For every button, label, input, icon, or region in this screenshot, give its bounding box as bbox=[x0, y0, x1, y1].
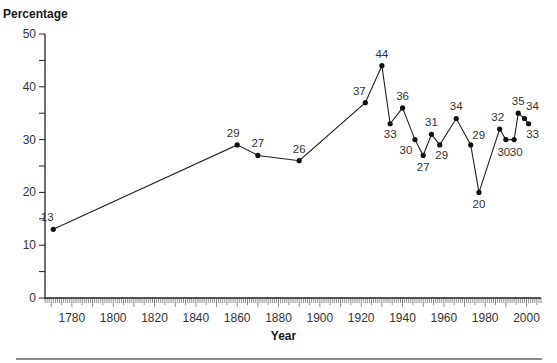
series-line bbox=[53, 66, 528, 230]
data-point bbox=[388, 121, 393, 126]
x-axis-ticks: 1780180018201840186018801900192019401960… bbox=[45, 298, 541, 325]
y-axis-label: Percentage bbox=[3, 7, 68, 21]
data-label: 34 bbox=[450, 100, 463, 112]
x-tick-label: 1820 bbox=[141, 311, 168, 325]
data-point bbox=[400, 105, 405, 110]
data-label: 32 bbox=[491, 111, 504, 123]
x-tick-label: 1920 bbox=[348, 311, 375, 325]
data-point bbox=[503, 137, 508, 142]
data-point bbox=[297, 158, 302, 163]
y-tick-label: 20 bbox=[23, 185, 37, 199]
data-label: 33 bbox=[384, 128, 397, 140]
data-label: 29 bbox=[227, 127, 240, 139]
data-label: 26 bbox=[293, 143, 306, 155]
data-label: 35 bbox=[512, 95, 525, 107]
x-tick-label: 1960 bbox=[431, 311, 458, 325]
data-point bbox=[412, 137, 417, 142]
y-tick-label: 40 bbox=[23, 80, 37, 94]
data-point bbox=[437, 142, 442, 147]
data-series: 1329272637443336302731293429203230303534… bbox=[41, 48, 540, 232]
data-point bbox=[51, 227, 56, 232]
x-tick-label: 1900 bbox=[307, 311, 334, 325]
data-label: 30 bbox=[510, 146, 523, 158]
data-point bbox=[421, 153, 426, 158]
data-point bbox=[363, 100, 368, 105]
data-point bbox=[522, 116, 527, 121]
x-tick-label: 2000 bbox=[513, 311, 540, 325]
y-axis-ticks: 01020304050 bbox=[23, 27, 45, 305]
data-label: 33 bbox=[526, 128, 539, 140]
data-point bbox=[255, 153, 260, 158]
data-label: 20 bbox=[473, 198, 486, 210]
x-tick-label: 1780 bbox=[59, 311, 86, 325]
y-tick-label: 0 bbox=[29, 291, 36, 305]
x-tick-label: 1840 bbox=[183, 311, 210, 325]
x-tick-label: 1860 bbox=[224, 311, 251, 325]
data-point bbox=[429, 132, 434, 137]
data-label: 13 bbox=[41, 211, 54, 223]
x-tick-label: 1980 bbox=[472, 311, 499, 325]
data-label: 27 bbox=[417, 161, 430, 173]
x-tick-label: 1940 bbox=[389, 311, 416, 325]
data-label: 30 bbox=[497, 146, 510, 158]
bottom-divider bbox=[16, 358, 542, 360]
data-point bbox=[454, 116, 459, 121]
x-tick-label: 1880 bbox=[265, 311, 292, 325]
data-label: 30 bbox=[400, 144, 413, 156]
y-tick-label: 50 bbox=[23, 27, 37, 41]
data-point bbox=[516, 111, 521, 116]
data-point bbox=[497, 126, 502, 131]
data-label: 36 bbox=[396, 90, 409, 102]
data-point bbox=[526, 121, 531, 126]
data-label: 31 bbox=[425, 116, 438, 128]
data-label: 44 bbox=[375, 48, 388, 60]
x-tick-label: 1800 bbox=[100, 311, 127, 325]
data-label: 27 bbox=[251, 137, 264, 149]
data-point bbox=[512, 137, 517, 142]
data-point bbox=[476, 190, 481, 195]
data-point bbox=[468, 142, 473, 147]
x-axis-label: Year bbox=[0, 329, 557, 343]
y-tick-label: 30 bbox=[23, 133, 37, 147]
data-label: 29 bbox=[435, 149, 448, 161]
data-label: 37 bbox=[353, 85, 366, 97]
y-tick-label: 10 bbox=[23, 238, 37, 252]
data-label: 29 bbox=[472, 129, 485, 141]
data-label: 34 bbox=[526, 100, 539, 112]
line-chart: 01020304050 1780180018201840186018801900… bbox=[0, 0, 557, 363]
data-point bbox=[379, 63, 384, 68]
data-point bbox=[235, 142, 240, 147]
